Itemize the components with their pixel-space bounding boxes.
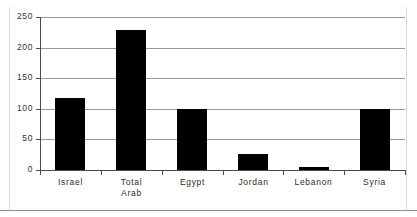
x-tick-mark bbox=[405, 171, 406, 175]
x-tick-mark bbox=[344, 171, 345, 175]
x-tick-mark bbox=[101, 171, 102, 175]
x-tick-mark bbox=[283, 171, 284, 175]
x-tick-label-syria: Syria bbox=[344, 177, 405, 188]
x-tick-label-egypt: Egypt bbox=[162, 177, 223, 188]
x-tick-mark bbox=[162, 171, 163, 175]
x-axis-tick-labels: IsraelTotalArabEgyptJordanLebanonSyria bbox=[0, 0, 417, 217]
x-tick-label-line: Jordan bbox=[223, 177, 284, 188]
footer-rule bbox=[0, 210, 417, 211]
x-tick-label-line: Total bbox=[101, 177, 162, 188]
x-tick-mark bbox=[223, 171, 224, 175]
x-tick-label-line: Arab bbox=[101, 188, 162, 199]
x-tick-label-israel: Israel bbox=[40, 177, 101, 188]
bar-chart-figure: 050100150200250 IsraelTotalArabEgyptJord… bbox=[0, 0, 417, 217]
x-tick-label-jordan: Jordan bbox=[223, 177, 284, 188]
x-tick-mark bbox=[40, 171, 41, 175]
x-tick-label-line: Lebanon bbox=[283, 177, 344, 188]
x-tick-label-lebanon: Lebanon bbox=[283, 177, 344, 188]
x-tick-label-line: Syria bbox=[344, 177, 405, 188]
x-tick-label-line: Israel bbox=[40, 177, 101, 188]
x-tick-label-total-arab: TotalArab bbox=[101, 177, 162, 199]
x-tick-label-line: Egypt bbox=[162, 177, 223, 188]
